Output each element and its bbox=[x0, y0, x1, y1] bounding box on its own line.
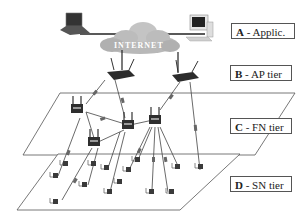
internet-cloud: INTERNET bbox=[100, 22, 180, 54]
internet-label: INTERNET bbox=[114, 41, 164, 50]
tier-text: - SN tier bbox=[243, 179, 284, 191]
tier-letter: C bbox=[235, 121, 243, 133]
ap-router-icon bbox=[172, 60, 199, 82]
tier-letter: A bbox=[236, 26, 244, 38]
tier-letter: D bbox=[235, 179, 243, 191]
ap-router-icon bbox=[107, 58, 135, 80]
laptop-icon bbox=[60, 13, 90, 35]
tier-text: - FN tier bbox=[243, 121, 284, 133]
tier-label-application: A - Applic. bbox=[231, 23, 295, 39]
desktop-pc-icon bbox=[186, 15, 213, 41]
tier-text: - AP tier bbox=[242, 68, 282, 80]
tier-text: - Applic. bbox=[244, 26, 285, 38]
tier-label-ap: B - AP tier bbox=[230, 65, 292, 81]
sn-tier-plane bbox=[17, 154, 240, 210]
tier-label-fn: C - FN tier bbox=[230, 118, 292, 134]
tier-label-sn: D - SN tier bbox=[230, 176, 292, 192]
